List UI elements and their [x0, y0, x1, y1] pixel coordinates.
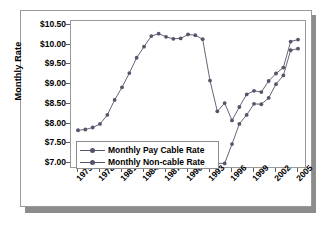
y-axis-tick: [66, 83, 70, 84]
y-axis-tick: [66, 24, 70, 25]
legend-marker-circle-icon: [80, 157, 105, 168]
legend-label: Monthly Pay Cable Rate: [105, 145, 204, 155]
x-axis-tick-label: 2002: [272, 163, 292, 183]
legend-marker-circle-icon: [80, 145, 105, 156]
y-axis-tick: [66, 162, 70, 163]
x-axis-tick-labels: 1975197819811984198719901993199619992002…: [0, 0, 333, 225]
chart-container: Monthly Rate $10.50$10.00$9.50$9.00$8.50…: [0, 0, 333, 225]
legend-label: Monthly Non-cable Rate: [105, 157, 205, 167]
chart-legend: Monthly Pay Cable Rate Monthly Non-cable…: [76, 141, 219, 169]
x-axis-tick-label: 2005: [294, 163, 314, 183]
x-axis-tick-label: 1999: [250, 163, 270, 183]
legend-item-pay-cable: Monthly Pay Cable Rate: [80, 144, 215, 156]
y-axis-tick: [66, 103, 70, 104]
x-axis-tick-label: 1996: [228, 163, 248, 183]
y-axis-tick: [66, 142, 70, 143]
legend-item-non-cable: Monthly Non-cable Rate: [80, 156, 215, 168]
y-axis-tick: [66, 44, 70, 45]
y-axis-tick: [66, 63, 70, 64]
y-axis-tick: [66, 123, 70, 124]
